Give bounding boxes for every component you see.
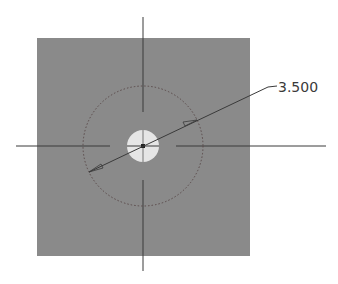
dimension-leader [268, 86, 277, 87]
cad-sketch-canvas: 3.500 [0, 0, 338, 284]
dimension-label[interactable]: 3.500 [278, 79, 318, 95]
